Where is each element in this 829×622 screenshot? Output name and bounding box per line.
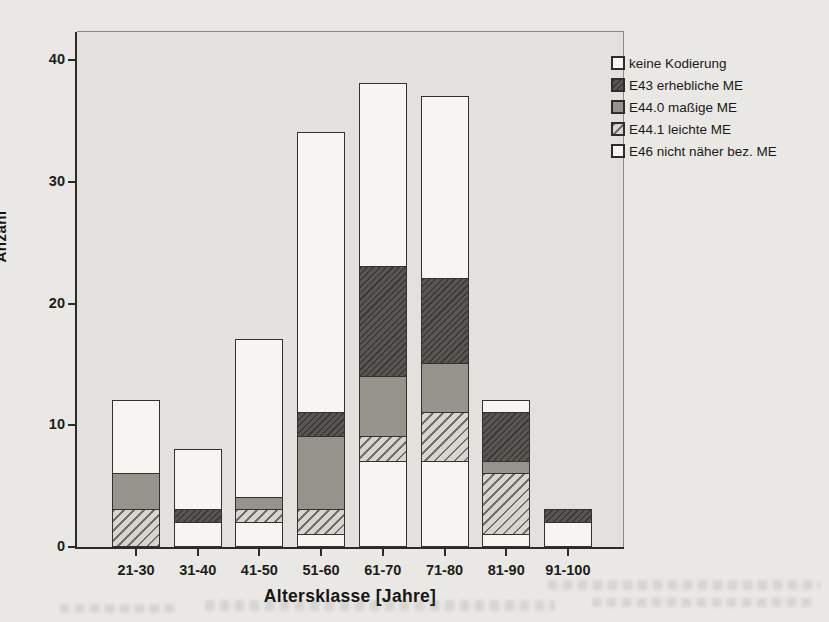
x-tick-label: 21-30 [101, 562, 171, 578]
x-tick-label: 51-60 [286, 562, 356, 578]
bar-segment [421, 96, 469, 280]
bar-segment [359, 436, 407, 461]
bar-segment [235, 509, 283, 522]
dark-hatch-swatch-icon [611, 78, 625, 92]
x-tick-mark [382, 549, 384, 556]
bar-segment [297, 534, 345, 547]
y-tick-label: 0 [31, 538, 65, 554]
bar-segment [482, 412, 530, 462]
white-swatch-icon [611, 144, 625, 158]
legend-item: E46 nicht näher bez. ME [611, 140, 777, 162]
x-tick-label: 31-40 [163, 562, 233, 578]
chart-legend: keine KodierungE43 erhebliche MEE44.0 ma… [611, 52, 777, 162]
bar-segment [482, 473, 530, 535]
x-tick-mark [444, 549, 446, 556]
y-tick-mark [68, 59, 75, 61]
x-tick-mark [320, 549, 322, 556]
bar-segment [112, 400, 160, 474]
light-hatch-swatch-icon [611, 122, 625, 136]
bleed-through-artifact [592, 598, 817, 607]
bar-segment [421, 278, 469, 364]
legend-label: E43 erhebliche ME [629, 78, 743, 93]
bleed-through-artifact [548, 580, 820, 590]
y-tick-label: 40 [31, 51, 65, 67]
x-tick-label: 81-90 [471, 562, 541, 578]
legend-label: E46 nicht näher bez. ME [629, 144, 777, 159]
bar-segment [359, 266, 407, 377]
y-tick-label: 20 [31, 295, 65, 311]
bar-segment [297, 412, 345, 437]
bar-segment [297, 509, 345, 534]
legend-label: E44.1 leichte ME [629, 122, 731, 137]
x-tick-mark [135, 549, 137, 556]
bar-segment [174, 509, 222, 522]
bar-segment [482, 461, 530, 474]
y-tick-mark [68, 303, 75, 305]
x-tick-mark [258, 549, 260, 556]
legend-item: E44.1 leichte ME [611, 118, 777, 140]
bar-segment [421, 412, 469, 462]
y-tick-mark [68, 181, 75, 183]
legend-item: E44.0 maßige ME [611, 96, 777, 118]
bar-segment [359, 83, 407, 267]
bleed-through-artifact [60, 604, 178, 613]
x-tick-label: 41-50 [224, 562, 294, 578]
y-axis-line [75, 32, 77, 547]
bar-segment [235, 522, 283, 547]
bar-segment [174, 449, 222, 511]
legend-item: keine Kodierung [611, 52, 777, 74]
bar-segment [482, 400, 530, 413]
bar-segment [482, 534, 530, 547]
stacked-bar-chart-figure: Anzahl 01020304021-3031-4041-5051-6061-7… [0, 0, 829, 622]
bar-segment [544, 522, 592, 547]
y-tick-label: 30 [31, 173, 65, 189]
bar-segment [359, 376, 407, 438]
plot-area: 01020304021-3031-4041-5051-6061-7071-808… [77, 31, 624, 547]
legend-label: keine Kodierung [629, 56, 727, 71]
bar-segment [112, 509, 160, 547]
bar-segment [359, 461, 407, 547]
bar-segment [421, 363, 469, 413]
bar-segment [297, 132, 345, 413]
x-tick-label: 71-80 [410, 562, 480, 578]
y-tick-mark [68, 546, 75, 548]
bar-segment [421, 461, 469, 547]
bar-segment [235, 339, 283, 498]
legend-item: E43 erhebliche ME [611, 74, 777, 96]
bar-segment [174, 522, 222, 547]
x-tick-label: 61-70 [348, 562, 418, 578]
gray-swatch-icon [611, 100, 625, 114]
legend-label: E44.0 maßige ME [629, 100, 737, 115]
x-tick-label: 91-100 [533, 562, 603, 578]
y-axis-title: Anzahl [0, 177, 9, 297]
bar-segment [112, 473, 160, 511]
x-tick-mark [505, 549, 507, 556]
white-swatch-icon [611, 56, 625, 70]
bar-segment [235, 497, 283, 510]
bar-segment [544, 509, 592, 522]
y-tick-mark [68, 424, 75, 426]
bar-segment [297, 436, 345, 510]
y-tick-label: 10 [31, 416, 65, 432]
x-tick-mark [567, 549, 569, 556]
x-axis-line [75, 547, 624, 549]
x-tick-mark [197, 549, 199, 556]
bleed-through-artifact [205, 600, 555, 611]
